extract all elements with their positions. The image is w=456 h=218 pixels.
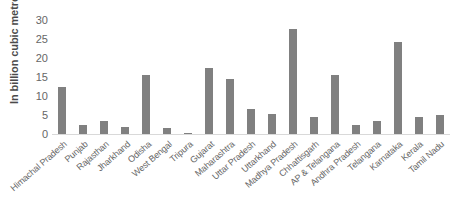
y-axis-tick: 20 (26, 53, 48, 64)
bar-slot (366, 20, 387, 134)
bar[interactable] (79, 125, 87, 134)
y-axis-tick: 30 (26, 15, 48, 26)
bar-series (52, 20, 450, 134)
bar-slot (282, 20, 303, 134)
y-axis-tick: 0 (26, 129, 48, 140)
bar[interactable] (205, 68, 213, 135)
bar-slot (115, 20, 136, 134)
plot-area (52, 20, 450, 134)
bar-slot (199, 20, 220, 134)
y-axis-tick-labels: 051015202530 (26, 14, 48, 136)
bar-slot (94, 20, 115, 134)
y-axis-tick: 5 (26, 110, 48, 121)
bar[interactable] (226, 79, 234, 134)
bar-chart: In billion cubic metre 051015202530 Hima… (0, 0, 456, 218)
bar-slot (157, 20, 178, 134)
x-axis-line (52, 134, 450, 135)
bar[interactable] (58, 87, 66, 134)
bar[interactable] (394, 42, 402, 134)
bar-slot (241, 20, 262, 134)
x-axis-tick: Himachal Pradesh (9, 139, 69, 193)
bar[interactable] (352, 125, 360, 135)
bar[interactable] (310, 117, 318, 134)
bar[interactable] (121, 127, 129, 134)
bar-slot (303, 20, 324, 134)
bar-slot (387, 20, 408, 134)
bar[interactable] (415, 117, 423, 134)
bar[interactable] (436, 115, 444, 134)
bar-slot (429, 20, 450, 134)
x-axis-tick-labels: Himachal PradeshPunjabRajasthanJharkhand… (52, 136, 450, 218)
bar-slot (262, 20, 283, 134)
bar[interactable] (247, 109, 255, 134)
bar[interactable] (331, 75, 339, 134)
bar-slot (324, 20, 345, 134)
bar[interactable] (289, 29, 297, 134)
bar-slot (178, 20, 199, 134)
bar-slot (73, 20, 94, 134)
y-axis-title: In billion cubic metre (6, 0, 22, 108)
bar-slot (52, 20, 73, 134)
bar-slot (136, 20, 157, 134)
y-axis-tick: 15 (26, 72, 48, 83)
bar-slot (408, 20, 429, 134)
bar-slot (220, 20, 241, 134)
bar[interactable] (373, 121, 381, 134)
bar-slot (345, 20, 366, 134)
y-axis-tick: 10 (26, 91, 48, 102)
bar[interactable] (268, 114, 276, 134)
y-axis-tick: 25 (26, 34, 48, 45)
bar[interactable] (100, 121, 108, 134)
bar[interactable] (142, 75, 150, 134)
